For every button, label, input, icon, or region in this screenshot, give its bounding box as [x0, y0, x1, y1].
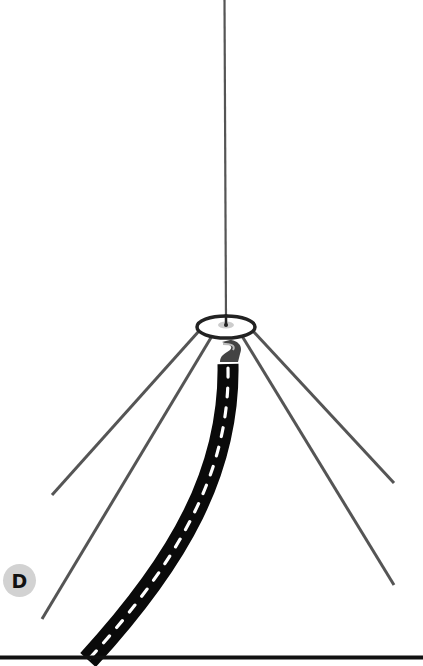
radial-upper-left — [52, 331, 199, 495]
label-badge-d: D — [3, 564, 36, 597]
coax-cable — [88, 364, 228, 660]
antenna-mast — [225, 0, 227, 322]
mast-feedpoint — [224, 323, 228, 327]
coax-cable-dashes — [88, 368, 228, 660]
antenna-diagram — [0, 0, 423, 666]
radial-upper-right — [253, 331, 394, 483]
